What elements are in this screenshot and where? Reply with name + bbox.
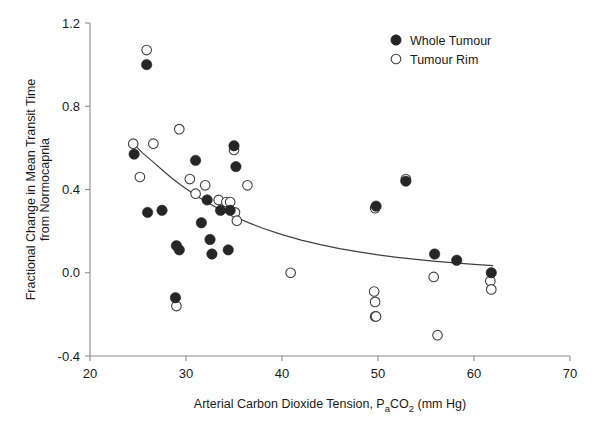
- data-point-whole-tumour: [371, 201, 381, 211]
- data-point-tumour-rim: [135, 172, 145, 182]
- x-tick-label: 40: [275, 366, 289, 381]
- data-point-whole-tumour: [174, 245, 184, 255]
- data-point-whole-tumour: [141, 59, 151, 69]
- legend-marker-whole-tumour: [391, 35, 401, 45]
- data-point-tumour-rim: [174, 124, 184, 134]
- x-tick-label: 20: [83, 366, 97, 381]
- y-tick-label: -0.4: [58, 349, 80, 364]
- data-point-whole-tumour: [231, 161, 241, 171]
- fit-curve-path: [132, 143, 493, 266]
- data-point-whole-tumour: [142, 207, 152, 217]
- data-point-whole-tumour: [401, 176, 411, 186]
- data-point-whole-tumour: [207, 249, 217, 259]
- data-point-whole-tumour: [429, 249, 439, 259]
- data-point-tumour-rim: [128, 139, 138, 149]
- y-tick-label: 1.2: [62, 16, 80, 31]
- data-point-tumour-rim: [433, 330, 443, 340]
- y-axis-title-line2: from Normocapnia: [38, 138, 52, 241]
- data-point-whole-tumour: [190, 155, 200, 165]
- data-point-whole-tumour: [223, 245, 233, 255]
- fit-curve: [132, 143, 493, 266]
- axes: [85, 23, 570, 361]
- data-point-whole-tumour: [215, 205, 225, 215]
- chart-canvas: -0.40.00.40.81.2203040506070 Whole Tumou…: [0, 0, 596, 424]
- data-point-tumour-rim: [370, 297, 380, 307]
- data-point-whole-tumour: [225, 205, 235, 215]
- x-tick-label: 50: [371, 366, 385, 381]
- data-point-tumour-rim: [200, 181, 210, 191]
- data-point-whole-tumour: [205, 234, 215, 244]
- data-point-tumour-rim: [286, 268, 296, 278]
- y-tick-label: 0.8: [62, 99, 80, 114]
- legend-marker-tumour-rim: [391, 54, 401, 64]
- y-tick-label: 0.0: [62, 265, 80, 280]
- data-point-tumour-rim: [486, 285, 496, 295]
- tick-labels: -0.40.00.40.81.2203040506070: [58, 16, 578, 382]
- y-tick-label: 0.4: [62, 182, 80, 197]
- data-points: [128, 45, 496, 340]
- data-point-whole-tumour: [129, 149, 139, 159]
- data-point-whole-tumour: [196, 218, 206, 228]
- legend: Whole TumourTumour Rim: [391, 34, 491, 67]
- data-point-whole-tumour: [229, 141, 239, 151]
- data-point-whole-tumour: [452, 255, 462, 265]
- data-point-whole-tumour: [170, 293, 180, 303]
- scatter-plot-figure: -0.40.00.40.81.2203040506070 Whole Tumou…: [0, 0, 596, 424]
- data-point-tumour-rim: [371, 312, 381, 322]
- data-point-tumour-rim: [243, 181, 253, 191]
- data-point-tumour-rim: [232, 216, 242, 226]
- legend-label: Tumour Rim: [410, 53, 478, 67]
- x-axis-title: Arterial Carbon Dioxide Tension, PaCO2 (…: [194, 397, 466, 414]
- data-point-tumour-rim: [429, 272, 439, 282]
- legend-label: Whole Tumour: [410, 34, 491, 48]
- data-point-tumour-rim: [142, 45, 152, 55]
- data-point-whole-tumour: [486, 268, 496, 278]
- x-tick-label: 70: [563, 366, 577, 381]
- y-axis-title-line1: Fractional Change in Mean Transit Time: [24, 79, 38, 301]
- data-point-tumour-rim: [369, 287, 379, 297]
- x-tick-label: 60: [467, 366, 481, 381]
- data-point-tumour-rim: [149, 139, 159, 149]
- data-point-tumour-rim: [191, 189, 201, 199]
- x-tick-label: 30: [179, 366, 193, 381]
- data-point-whole-tumour: [202, 195, 212, 205]
- data-point-whole-tumour: [157, 205, 167, 215]
- data-point-tumour-rim: [185, 174, 195, 184]
